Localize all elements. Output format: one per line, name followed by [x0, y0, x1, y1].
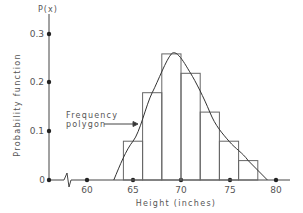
x-tick-label-60: 60 [81, 185, 93, 195]
x-tick-label-65: 65 [127, 185, 138, 195]
y-axis-symbol: P(x) [38, 5, 58, 14]
arrowhead-icon [133, 122, 138, 127]
bar-74-76 [219, 141, 238, 180]
y-tick-label-0.1: 0.1 [30, 126, 44, 136]
x-tick-label-70: 70 [175, 185, 187, 195]
bar-64-66 [123, 141, 142, 180]
x-tick-label-80: 80 [270, 185, 282, 195]
bar-76-78 [239, 161, 258, 180]
annotation-polygon: polygon [66, 120, 106, 129]
histogram-chart: P(x) 0.3 0.2 0.1 0 Probability function … [0, 0, 303, 213]
bar-70-72 [181, 73, 200, 180]
y-axis-title: Probability function [13, 53, 22, 157]
bar-72-74 [200, 112, 219, 180]
annotation-arrow [104, 122, 138, 127]
axis-break-icon [64, 173, 71, 187]
y-tick-label-0.3: 0.3 [30, 29, 44, 39]
y-tick-label-0: 0 [39, 175, 45, 185]
bar-66-68 [143, 93, 162, 180]
x-tick-label-75: 75 [224, 185, 235, 195]
y-tick-label-0.2: 0.2 [30, 77, 44, 87]
annotation-frequency: Frequency [66, 111, 118, 120]
x-axis-title: Height (inches) [136, 199, 217, 208]
bar-68-70 [162, 54, 181, 180]
